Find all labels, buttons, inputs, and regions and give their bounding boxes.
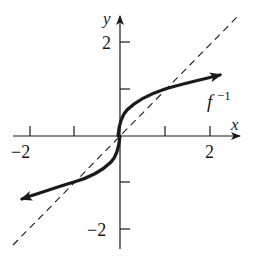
inverse-function-curve-lower xyxy=(22,136,120,199)
y-tick-label-neg2: −2 xyxy=(87,220,106,240)
curve-label: f −1 xyxy=(207,88,231,112)
x-tick-label-neg2: −2 xyxy=(11,142,30,162)
inverse-function-curve xyxy=(118,75,220,136)
x-tick-label-2: 2 xyxy=(205,142,214,162)
y-axis-label: y xyxy=(101,9,111,28)
identity-line xyxy=(13,14,240,245)
chart-canvas: y x 2 −2 −2 2 f −1 xyxy=(0,0,258,256)
y-tick-label-2: 2 xyxy=(102,33,111,53)
x-axis-label: x xyxy=(230,115,239,134)
curve-label-base: f xyxy=(207,91,215,112)
curve-label-sup: −1 xyxy=(217,88,231,103)
